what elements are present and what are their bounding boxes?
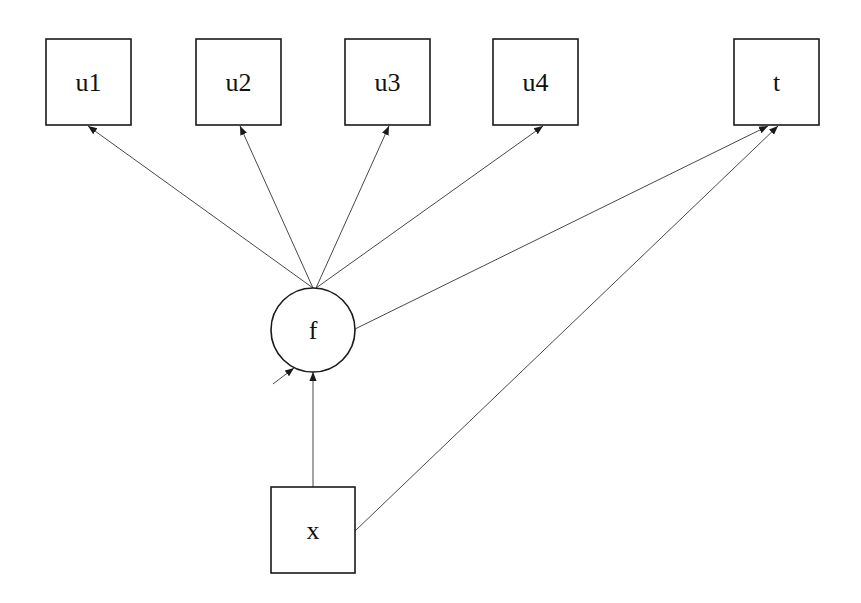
node-u3: u3 [345,39,430,125]
residual-arrow-f [273,368,294,384]
edge-f-u3 [316,126,389,288]
node-label-u1: u1 [76,68,102,97]
edge-x-t [355,126,778,531]
node-f: f [271,288,355,372]
edge-f-u2 [240,126,313,288]
node-u1: u1 [46,39,131,125]
node-u2: u2 [196,39,281,125]
node-label-t: t [773,68,781,97]
node-label-x: x [307,516,320,545]
node-u4: u4 [493,39,578,125]
edge-f-u4 [316,126,543,288]
edge-f-u1 [88,126,313,288]
node-label-u2: u2 [226,68,252,97]
node-label-u3: u3 [375,68,401,97]
node-label-u4: u4 [523,68,549,97]
node-t: t [734,39,819,125]
node-x: x [271,487,355,573]
edge-f-t [355,126,768,329]
path-diagram: u1 u2 u3 u4 t f x [0,0,861,603]
node-label-f: f [309,316,318,345]
